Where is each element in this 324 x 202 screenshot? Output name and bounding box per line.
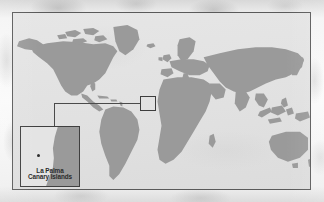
- callout-leader-vertical: [54, 103, 55, 128]
- landmass-arctic-island-2: [83, 28, 99, 35]
- map-figure-screenshot: La Palma Canary Islands: [0, 0, 324, 202]
- inset-label-line-2: Canary Islands: [21, 174, 79, 181]
- landmass-south-america: [99, 107, 139, 180]
- landmass-arctic-island-1: [65, 30, 81, 37]
- landmass-new-guinea: [295, 112, 310, 122]
- landmass-british-isles: [163, 54, 172, 62]
- landmass-iceland: [146, 43, 155, 48]
- landmass-cuba: [97, 95, 109, 98]
- landmass-north-america: [31, 41, 117, 95]
- inset-callout-box: La Palma Canary Islands: [20, 126, 80, 187]
- landmass-greenland: [113, 25, 139, 55]
- detail-region-box: [140, 96, 156, 111]
- inset-label-group: La Palma Canary Islands: [21, 168, 79, 181]
- landmass-hispaniola: [110, 99, 117, 101]
- landmass-arabia: [210, 83, 226, 99]
- landmass-ireland: [158, 57, 162, 61]
- landmass-australia: [269, 132, 308, 162]
- landmass-arctic-island-5: [57, 34, 67, 39]
- landmass-java: [268, 118, 282, 124]
- landmass-new-zealand-south: [308, 158, 310, 167]
- landmass-sulawesi: [286, 108, 294, 116]
- landmass-tasmania: [292, 163, 298, 168]
- landmass-korea: [286, 69, 290, 75]
- landmass-scandinavia: [178, 37, 196, 61]
- landmass-africa: [157, 77, 211, 163]
- world-map-plate: La Palma Canary Islands: [12, 12, 311, 190]
- landmass-arctic-island-4: [94, 35, 107, 42]
- callout-leader-horizontal: [54, 103, 141, 104]
- landmass-iberia: [160, 68, 173, 77]
- landmass-india: [235, 91, 250, 111]
- landmass-madagascar: [209, 134, 216, 148]
- landmass-indochina: [255, 93, 268, 107]
- landmass-europe: [170, 59, 210, 75]
- landmass-florida: [90, 81, 95, 91]
- landmass-sumatra: [258, 108, 272, 118]
